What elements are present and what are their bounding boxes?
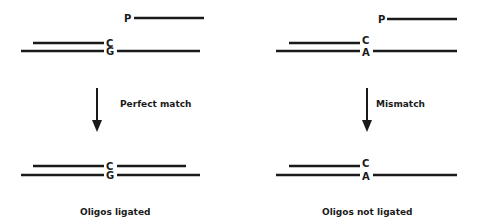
- phosphate-label: P: [124, 13, 131, 24]
- template-base: A: [362, 171, 370, 182]
- transition-label: Perfect match: [120, 99, 191, 109]
- right-panel: P C A Mismatch C A Oligos not ligated: [276, 14, 457, 217]
- down-arrow-icon: [362, 88, 372, 132]
- caption: Oligos ligated: [80, 207, 150, 217]
- template-base: A: [362, 47, 370, 58]
- left-panel: P C G Perfect match C G Oligos ligated: [21, 13, 204, 217]
- phosphate-label: P: [378, 14, 385, 25]
- template-base: G: [106, 170, 114, 181]
- template-base: G: [106, 46, 114, 57]
- ligation-diagram: P C G Perfect match C G Oligos ligated P…: [0, 0, 477, 224]
- caption: Oligos not ligated: [322, 207, 413, 217]
- unligated-oligo-base: C: [362, 158, 369, 169]
- down-arrow-icon: [92, 88, 102, 132]
- transition-label: Mismatch: [376, 99, 425, 109]
- upstream-oligo-base: C: [362, 35, 369, 46]
